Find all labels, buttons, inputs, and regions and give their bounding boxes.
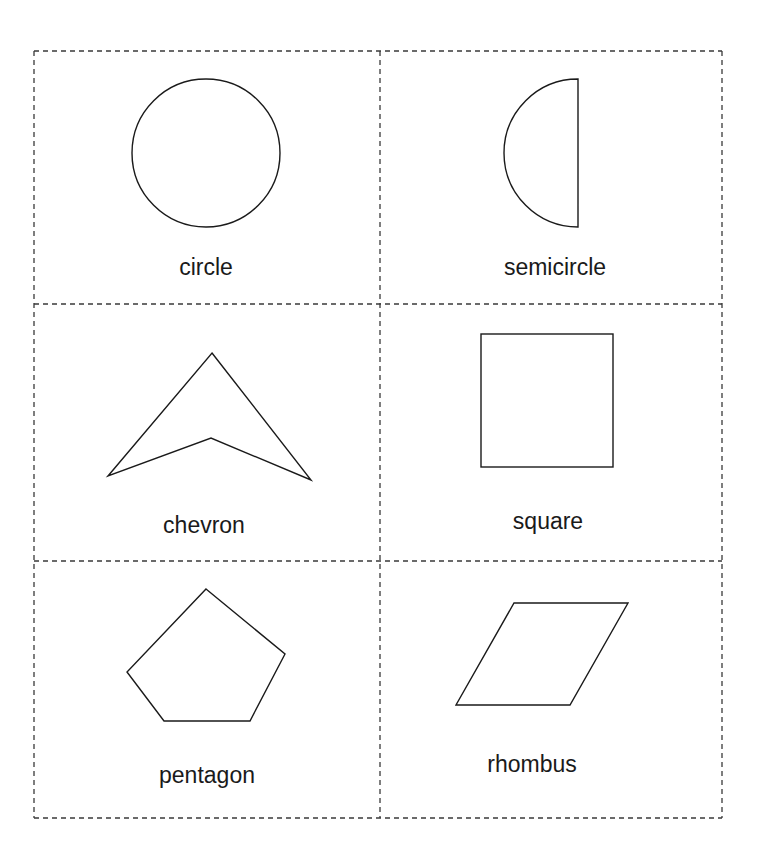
card-label-circle: circle	[179, 256, 233, 279]
card-label-pentagon: pentagon	[159, 764, 255, 787]
semicircle-shape	[504, 79, 578, 227]
chevron-shape	[108, 353, 311, 480]
circle-shape	[132, 79, 280, 227]
pentagon-shape	[127, 589, 285, 721]
card-label-rhombus: rhombus	[487, 753, 576, 776]
cut-grid	[0, 0, 763, 860]
shape-cards-worksheet: circle semicircle chevron square pentago…	[0, 0, 763, 860]
card-label-square: square	[513, 510, 583, 533]
rhombus-shape	[456, 603, 628, 705]
card-label-semicircle: semicircle	[504, 256, 606, 279]
square-shape	[481, 334, 613, 467]
card-label-chevron: chevron	[163, 514, 245, 537]
